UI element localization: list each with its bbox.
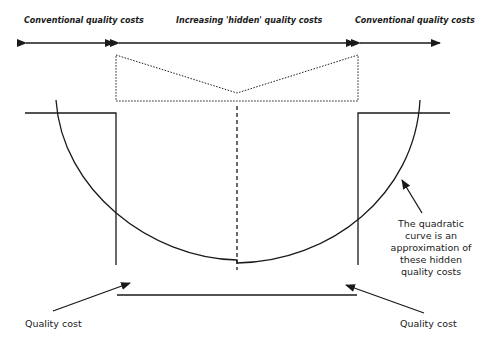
label-conventional-right: Conventional quality costs: [355, 16, 475, 25]
quality-cost-diagram: [0, 0, 483, 343]
label-quality-cost-right: Quality cost: [400, 318, 457, 329]
curve-note: The quadratic curve is an approximation …: [386, 218, 476, 278]
quadratic-curve: [56, 100, 420, 263]
label-quality-cost-left: Quality cost: [25, 318, 82, 329]
step-cost-left: [25, 113, 116, 265]
hidden-cost-region: [116, 55, 358, 101]
curve-note-arrow: [402, 180, 422, 213]
label-conventional-left: Conventional quality costs: [24, 16, 144, 25]
quality-cost-right-arrow: [346, 285, 424, 313]
quality-cost-left-arrow: [53, 283, 130, 311]
label-hidden-costs: Increasing 'hidden' quality costs: [176, 16, 322, 25]
